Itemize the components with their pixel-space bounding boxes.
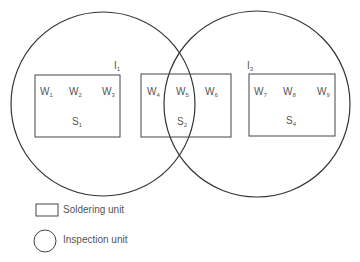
legend-rectangle-icon bbox=[36, 204, 58, 216]
soldering-label-s1: S1 bbox=[72, 117, 82, 128]
legend-soldering-label: Soldering unit bbox=[63, 204, 124, 215]
workstation-w2: W2 bbox=[69, 87, 82, 98]
workstation-w3: W3 bbox=[102, 87, 115, 98]
inspection-circle-i1 bbox=[11, 12, 195, 196]
legend-circle-icon bbox=[34, 230, 56, 252]
workstation-w1: W1 bbox=[40, 87, 53, 98]
workstation-w9: W9 bbox=[317, 87, 330, 98]
workstation-w5: W5 bbox=[176, 87, 189, 98]
workstation-w7: W7 bbox=[254, 87, 267, 98]
workstation-w6: W6 bbox=[205, 87, 218, 98]
workstation-w4: W4 bbox=[147, 87, 160, 98]
soldering-label-s2: S2 bbox=[177, 117, 187, 128]
workstation-w8: W8 bbox=[283, 87, 296, 98]
legend-inspection-label: Inspection unit bbox=[63, 234, 128, 245]
inspection-circle-i3 bbox=[164, 11, 350, 197]
label-i3: I3 bbox=[247, 61, 253, 72]
soldering-label-s4: S4 bbox=[286, 116, 296, 127]
label-i1: I1 bbox=[114, 61, 120, 72]
diagram-canvas bbox=[0, 0, 360, 262]
